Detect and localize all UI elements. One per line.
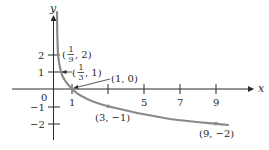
- annotation-one-ninth-two: ( 1 9 , 2): [62, 45, 92, 64]
- svg-text:(: (: [62, 49, 66, 60]
- point-3-m1: [106, 105, 110, 109]
- annotation-one-third-one: ( 1 3 , 1): [72, 63, 102, 82]
- svg-text:(: (: [72, 67, 76, 78]
- y-tick-label-m1: −1: [30, 102, 45, 113]
- annotation-nine-m2: (9, −2): [199, 128, 234, 139]
- svg-text:1: 1: [79, 63, 84, 72]
- x-tick-label-5: 5: [141, 97, 147, 108]
- y-tick-label-2: 2: [38, 50, 44, 61]
- annotation-one-zero: (1, 0): [111, 73, 138, 84]
- y-tick-label-1: 1: [38, 67, 44, 78]
- x-tick-label-9: 9: [213, 97, 219, 108]
- svg-text:3: 3: [79, 73, 84, 82]
- x-tick-label-1: 1: [69, 97, 75, 108]
- annotation-three-m1: (3, −1): [95, 112, 130, 123]
- point-9-m2: [214, 122, 218, 126]
- svg-text:1: 1: [69, 45, 74, 54]
- x-axis-label: x: [258, 82, 265, 95]
- svg-text:, 1): , 1): [85, 67, 102, 78]
- log-function-graph: x y 1 5 7 9 2 1 0 −1 −2 ( 1 9 , 2) ( 1 3…: [0, 0, 269, 150]
- svg-text:, 2): , 2): [75, 49, 92, 60]
- y-tick-label-m2: −2: [30, 119, 45, 130]
- y-axis-label: y: [49, 2, 57, 15]
- x-tick-label-7: 7: [177, 97, 183, 108]
- svg-text:9: 9: [69, 55, 74, 64]
